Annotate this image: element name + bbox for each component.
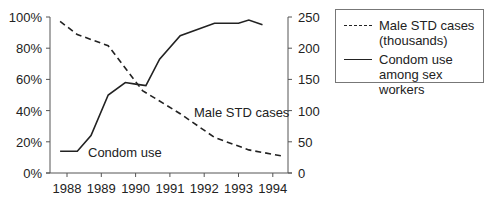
x-tick-label: 1992 (190, 181, 219, 196)
x-tick-label: 1989 (87, 181, 116, 196)
left-tick-label: 0% (23, 166, 42, 181)
left-tick-label: 60% (16, 72, 42, 87)
right-tick-label: 100 (298, 104, 320, 119)
annotation-condom: Condom use (88, 145, 162, 160)
legend: Male STD cases (thousands) Condom use am… (335, 9, 484, 83)
annotation-std: Male STD cases (194, 105, 290, 120)
x-tick-label: 1991 (155, 181, 184, 196)
legend-label: Male STD cases (thousands) (379, 18, 489, 48)
left-tick-label: 20% (16, 135, 42, 150)
right-tick-label: 0 (298, 166, 305, 181)
right-tick-label: 200 (298, 41, 320, 56)
x-tick-label: 1988 (53, 181, 82, 196)
legend-label: Condom use among sex workers (379, 52, 489, 97)
left-tick-label: 100% (9, 10, 43, 25)
right-y-axis: 050100150200250 (288, 10, 320, 181)
std-cases-line (60, 21, 283, 156)
solid-line-swatch (344, 59, 372, 60)
right-tick-label: 150 (298, 72, 320, 87)
series-lines (60, 20, 283, 156)
x-tick-label: 1990 (121, 181, 150, 196)
left-tick-label: 80% (16, 41, 42, 56)
x-tick-label: 1994 (258, 181, 287, 196)
left-tick-label: 40% (16, 104, 42, 119)
dashed-line-swatch (344, 25, 372, 26)
left-y-axis: 0%20%40%60%80%100% (9, 10, 50, 181)
right-tick-label: 50 (298, 135, 312, 150)
x-axis: 1988198919901991199219931994 (46, 173, 292, 196)
x-tick-label: 1993 (224, 181, 253, 196)
right-tick-label: 250 (298, 10, 320, 25)
